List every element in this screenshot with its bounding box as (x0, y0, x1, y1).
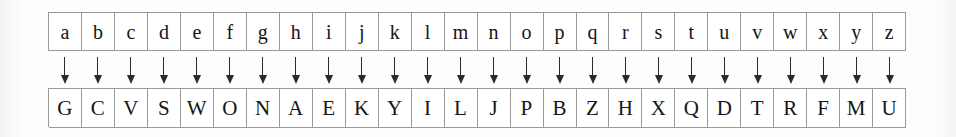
down-arrow-icon (720, 57, 729, 84)
plaintext-cell-u: u (708, 13, 741, 51)
down-arrow-icon (390, 57, 399, 84)
arrow-stem (592, 57, 593, 77)
arrow-cell-22 (774, 56, 807, 84)
ciphertext-cell-E: E (313, 89, 346, 128)
plaintext-cell-r: r (609, 13, 642, 51)
plaintext-cell-d: d (148, 13, 181, 51)
arrow-cell-18 (642, 56, 675, 84)
plaintext-cell-h: h (280, 13, 313, 51)
plaintext-alphabet-row: abcdefghijklmnopqrstuvwxyz (48, 12, 906, 51)
substitution-cipher-table: abcdefghijklmnopqrstuvwxyz GCVSWONAEKYIL… (48, 12, 906, 131)
arrow-stem (823, 57, 824, 77)
ciphertext-cell-Q: Q (675, 89, 708, 128)
arrow-cell-14 (510, 56, 543, 84)
plaintext-cell-z: z (873, 13, 906, 51)
ciphertext-cell-R: R (774, 89, 807, 128)
plaintext-cell-k: k (379, 13, 412, 51)
down-arrow-icon (555, 57, 564, 84)
plaintext-cell-w: w (774, 13, 807, 51)
plaintext-cell-q: q (577, 13, 610, 51)
arrow-stem (163, 57, 164, 77)
arrow-stem (559, 57, 560, 77)
down-arrow-icon (324, 57, 333, 84)
ciphertext-cell-S: S (148, 89, 181, 128)
down-arrow-icon (621, 57, 630, 84)
arrow-head (523, 75, 531, 84)
arrow-stem (295, 57, 296, 77)
down-arrow-icon (291, 57, 300, 84)
arrow-head (259, 75, 267, 84)
down-arrow-icon (93, 57, 102, 84)
ciphertext-cell-G: G (49, 89, 82, 128)
mapping-arrow-row (48, 56, 906, 84)
arrow-stem (889, 57, 890, 77)
arrow-cell-15 (543, 56, 576, 84)
arrow-cell-20 (708, 56, 741, 84)
arrow-stem (526, 57, 527, 77)
arrow-cell-7 (279, 56, 312, 84)
arrow-cell-13 (477, 56, 510, 84)
plaintext-cell-p: p (544, 13, 577, 51)
down-arrow-icon (885, 57, 894, 84)
arrow-stem (64, 57, 65, 77)
arrow-stem (97, 57, 98, 77)
ciphertext-cell-I: I (412, 89, 445, 128)
arrow-head (556, 75, 564, 84)
arrow-cell-0 (48, 56, 81, 84)
ciphertext-cell-H: H (609, 89, 642, 128)
down-arrow-icon (753, 57, 762, 84)
arrow-cell-21 (741, 56, 774, 84)
plaintext-cell-i: i (313, 13, 346, 51)
arrow-head (754, 75, 762, 84)
ciphertext-cell-Z: Z (577, 89, 610, 128)
down-arrow-icon (357, 57, 366, 84)
arrow-stem (394, 57, 395, 77)
down-arrow-icon (258, 57, 267, 84)
ciphertext-cell-L: L (445, 89, 478, 128)
ciphertext-cell-T: T (741, 89, 774, 128)
ciphertext-alphabet-row: GCVSWONAEKYILJPBZHXQDTRFMU (48, 88, 906, 127)
arrow-cell-19 (675, 56, 708, 84)
ciphertext-cell-N: N (247, 89, 280, 128)
arrow-cell-23 (807, 56, 840, 84)
arrow-cell-17 (609, 56, 642, 84)
arrow-head (820, 75, 828, 84)
arrow-stem (328, 57, 329, 77)
plaintext-cell-t: t (675, 13, 708, 51)
arrow-head (589, 75, 597, 84)
plaintext-cell-v: v (741, 13, 774, 51)
arrow-stem (856, 57, 857, 77)
arrow-head (787, 75, 795, 84)
arrow-stem (130, 57, 131, 77)
arrow-head (160, 75, 168, 84)
arrow-head (127, 75, 135, 84)
arrow-head (721, 75, 729, 84)
arrow-cell-3 (147, 56, 180, 84)
arrow-head (358, 75, 366, 84)
plaintext-cell-j: j (346, 13, 379, 51)
arrow-stem (460, 57, 461, 77)
arrow-cell-16 (576, 56, 609, 84)
arrow-head (490, 75, 498, 84)
arrow-stem (757, 57, 758, 77)
arrow-stem (625, 57, 626, 77)
arrow-head (424, 75, 432, 84)
ciphertext-cell-Y: Y (379, 89, 412, 128)
plaintext-cell-a: a (49, 13, 82, 51)
arrow-cell-25 (873, 56, 906, 84)
arrow-stem (229, 57, 230, 77)
down-arrow-icon (852, 57, 861, 84)
ciphertext-cell-X: X (642, 89, 675, 128)
plaintext-cell-f: f (214, 13, 247, 51)
down-arrow-icon (126, 57, 135, 84)
down-arrow-icon (489, 57, 498, 84)
ciphertext-cell-O: O (214, 89, 247, 128)
arrow-stem (790, 57, 791, 77)
arrow-head (61, 75, 69, 84)
arrow-cell-11 (411, 56, 444, 84)
arrow-cell-6 (246, 56, 279, 84)
down-arrow-icon (159, 57, 168, 84)
arrow-stem (724, 57, 725, 77)
plaintext-cell-c: c (115, 13, 148, 51)
arrow-cell-10 (378, 56, 411, 84)
